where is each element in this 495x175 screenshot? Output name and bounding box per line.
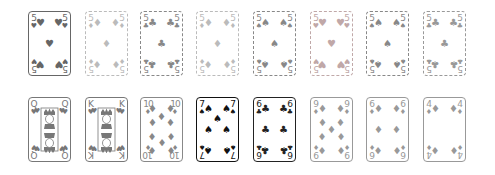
hearts-pip-icon: ♥ xyxy=(57,143,67,153)
diamonds-pip-icon: ♦ xyxy=(373,145,383,155)
card-5-of-spades[interactable]: 5♠5♠5♠5♠♠♠♠♠♠ xyxy=(366,11,409,76)
hearts-pip-icon: ♥ xyxy=(327,39,337,49)
diamonds-pip-icon: ♦ xyxy=(392,125,402,135)
diamonds-pip-icon: ♦ xyxy=(373,104,383,114)
diamonds-pip-icon: ♦ xyxy=(392,145,402,155)
hearts-pip-icon: ♥ xyxy=(114,106,124,116)
diamonds-pip-icon: ♦ xyxy=(449,145,459,155)
card-7-of-spades[interactable]: 7♠7♠7♠7♠♠♠♠♠♠♠♠ xyxy=(196,97,239,162)
card-5-of-clubs[interactable]: 5♣5♣5♣5♣♣♣♣♣♣ xyxy=(423,11,466,76)
clubs-pip-icon: ♣ xyxy=(430,59,440,69)
clubs-pip-icon: ♣ xyxy=(166,18,176,28)
card-k-of-hearts[interactable]: K♥K♥K♥K♥ ♥♥♥♥ xyxy=(85,97,128,162)
clubs-pip-icon: ♣ xyxy=(147,59,157,69)
card-4-of-diamonds[interactable]: 4♦4♦4♦4♦♦♦♦♦ xyxy=(423,97,466,162)
diamonds-pip-icon: ♦ xyxy=(336,118,346,128)
clubs-pip-icon: ♣ xyxy=(449,59,459,69)
spades-pip-icon: ♠ xyxy=(260,18,270,28)
diamonds-pip-icon: ♦ xyxy=(203,18,213,28)
hearts-pip-icon: ♥ xyxy=(317,59,327,69)
clubs-pip-icon: ♣ xyxy=(260,104,270,114)
clubs-pip-icon: ♣ xyxy=(260,145,270,155)
hearts-pip-icon: ♥ xyxy=(336,59,346,69)
card-10-of-diamonds[interactable]: 10♦10♦10♦10♦♦♦♦♦♦♦♦♦♦♦ xyxy=(140,97,183,162)
hearts-pip-icon: ♥ xyxy=(57,106,67,116)
clubs-pip-icon: ♣ xyxy=(166,59,176,69)
spades-pip-icon: ♠ xyxy=(279,18,289,28)
diamonds-pip-icon: ♦ xyxy=(392,104,402,114)
diamonds-pip-icon: ♦ xyxy=(336,104,346,114)
clubs-pip-icon: ♣ xyxy=(279,145,289,155)
hearts-pip-icon: ♥ xyxy=(336,18,346,28)
spades-pip-icon: ♠ xyxy=(279,59,289,69)
spades-pip-icon: ♠ xyxy=(392,18,402,28)
spades-pip-icon: ♠ xyxy=(203,145,213,155)
diamonds-pip-icon: ♦ xyxy=(430,104,440,114)
diamonds-pip-icon: ♦ xyxy=(102,39,112,49)
diamonds-pip-icon: ♦ xyxy=(327,125,337,135)
card-5-of-clubs[interactable]: 5♣5♣5♣5♣♣♣♣♣♣ xyxy=(140,11,183,76)
diamonds-pip-icon: ♦ xyxy=(166,104,176,114)
spades-pip-icon: ♠ xyxy=(260,59,270,69)
clubs-pip-icon: ♣ xyxy=(430,18,440,28)
diamonds-pip-icon: ♦ xyxy=(449,104,459,114)
card-5-of-spades[interactable]: 5♠5♠5♠5♠♠♠♠♠♠ xyxy=(253,11,296,76)
clubs-pip-icon: ♣ xyxy=(260,125,270,135)
spades-pip-icon: ♠ xyxy=(213,114,223,124)
diamonds-pip-icon: ♦ xyxy=(317,145,327,155)
spades-pip-icon: ♠ xyxy=(373,18,383,28)
hearts-pip-icon: ♥ xyxy=(89,143,99,153)
diamonds-pip-icon: ♦ xyxy=(147,131,157,141)
spades-pip-icon: ♠ xyxy=(222,125,232,135)
card-5-of-hearts[interactable]: 5♥5♥5♥5♥♥♥♥♥♥ xyxy=(310,11,353,76)
clubs-pip-icon: ♣ xyxy=(279,125,289,135)
diamonds-pip-icon: ♦ xyxy=(92,59,102,69)
diamonds-pip-icon: ♦ xyxy=(213,39,223,49)
card-5-of-diamonds[interactable]: 5♦5♦5♦5♦♦♦♦♦♦ xyxy=(196,11,239,76)
diamonds-pip-icon: ♦ xyxy=(111,18,121,28)
spades-pip-icon: ♠ xyxy=(222,145,232,155)
spades-pip-icon: ♠ xyxy=(373,59,383,69)
card-6-of-diamonds[interactable]: 6♦6♦6♦6♦♦♦♦♦♦♦ xyxy=(366,97,409,162)
diamonds-pip-icon: ♦ xyxy=(166,118,176,128)
hearts-pip-icon: ♥ xyxy=(35,59,45,69)
diamonds-pip-icon: ♦ xyxy=(222,59,232,69)
diamonds-pip-icon: ♦ xyxy=(111,59,121,69)
diamonds-pip-icon: ♦ xyxy=(317,131,327,141)
spades-pip-icon: ♠ xyxy=(222,104,232,114)
diamonds-pip-icon: ♦ xyxy=(430,145,440,155)
spades-pip-icon: ♠ xyxy=(383,39,393,49)
spades-pip-icon: ♠ xyxy=(203,104,213,114)
diamonds-pip-icon: ♦ xyxy=(336,131,346,141)
card-9-of-diamonds[interactable]: 9♦9♦9♦9♦♦♦♦♦♦♦♦♦♦ xyxy=(310,97,353,162)
diamonds-pip-icon: ♦ xyxy=(222,18,232,28)
hearts-pip-icon: ♥ xyxy=(54,18,64,28)
clubs-pip-icon: ♣ xyxy=(147,18,157,28)
hearts-pip-icon: ♥ xyxy=(89,106,99,116)
clubs-pip-icon: ♣ xyxy=(449,18,459,28)
diamonds-pip-icon: ♦ xyxy=(336,145,346,155)
diamonds-pip-icon: ♦ xyxy=(166,131,176,141)
diamonds-pip-icon: ♦ xyxy=(203,59,213,69)
diamonds-pip-icon: ♦ xyxy=(317,104,327,114)
card-5-of-diamonds[interactable]: 5♦5♦5♦5♦♦♦♦♦♦ xyxy=(85,11,128,76)
hearts-pip-icon: ♥ xyxy=(54,59,64,69)
hearts-pip-icon: ♥ xyxy=(35,18,45,28)
hearts-pip-icon: ♥ xyxy=(32,143,42,153)
spades-pip-icon: ♠ xyxy=(203,125,213,135)
hearts-pip-icon: ♥ xyxy=(317,18,327,28)
hearts-pip-icon: ♥ xyxy=(114,143,124,153)
diamonds-pip-icon: ♦ xyxy=(147,118,157,128)
card-q-of-hearts[interactable]: Q♥Q♥Q♥Q♥ ♥♥♥♥ xyxy=(28,97,71,162)
card-6-of-clubs[interactable]: 6♣6♣6♣6♣♣♣♣♣♣♣ xyxy=(253,97,296,162)
diamonds-pip-icon: ♦ xyxy=(166,145,176,155)
card-5-of-hearts[interactable]: 5♥5♥5♥5♥♥♥♥♥♥ xyxy=(28,11,71,76)
clubs-pip-icon: ♣ xyxy=(440,39,450,49)
hearts-pip-icon: ♥ xyxy=(45,39,55,49)
spades-pip-icon: ♠ xyxy=(392,59,402,69)
diamonds-pip-icon: ♦ xyxy=(92,18,102,28)
diamonds-pip-icon: ♦ xyxy=(157,137,167,147)
diamonds-pip-icon: ♦ xyxy=(147,145,157,155)
clubs-pip-icon: ♣ xyxy=(157,39,167,49)
diamonds-pip-icon: ♦ xyxy=(373,125,383,135)
